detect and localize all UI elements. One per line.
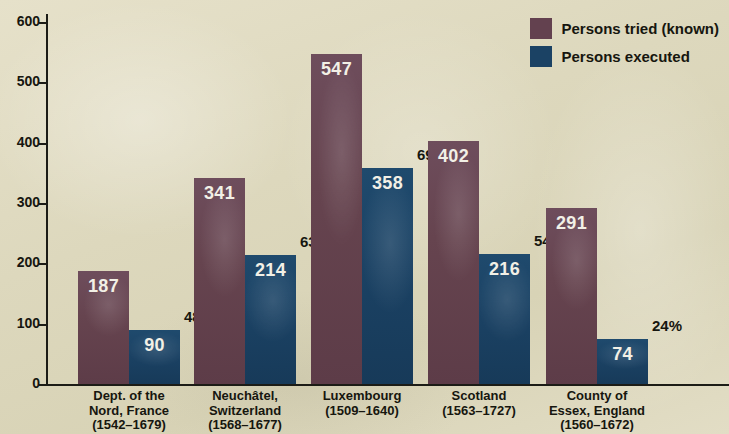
- y-tick-label: 500: [17, 73, 40, 89]
- x-axis-label-line: (1568–1677): [165, 418, 325, 433]
- y-tick-label: 100: [17, 315, 40, 331]
- bar-value-label: 216: [479, 259, 530, 280]
- y-tick-mark: [39, 263, 47, 265]
- y-tick-label: 400: [17, 134, 40, 150]
- x-axis-labels: Dept. of theNord, France(1542–1679)Neuch…: [46, 389, 729, 434]
- legend-swatch-persons-executed: [530, 46, 552, 67]
- legend-item: Persons tried (known): [530, 18, 719, 39]
- y-axis-line: [46, 14, 48, 386]
- y-tick-label: 300: [17, 194, 40, 210]
- bar-group: 54735869%: [311, 14, 413, 384]
- legend-item: Persons executed: [530, 46, 719, 67]
- legend: Persons tried (known)Persons executed: [530, 18, 719, 67]
- bar-persons-executed: 214: [245, 255, 296, 384]
- y-tick-mark: [39, 384, 47, 386]
- x-axis-label-line: County of: [517, 389, 677, 404]
- bar-value-label: 341: [194, 183, 245, 204]
- x-axis-label-line: (1560–1672): [517, 418, 677, 433]
- legend-label: Persons tried (known): [561, 20, 719, 37]
- bar-value-label: 402: [428, 146, 479, 167]
- y-tick-label: 200: [17, 254, 40, 270]
- bar-value-label: 90: [129, 335, 180, 356]
- bar-value-label: 214: [245, 260, 296, 281]
- y-tick-mark: [39, 22, 47, 24]
- bar-persons-tried: 187: [78, 271, 129, 384]
- bar-value-label: 187: [78, 276, 129, 297]
- y-tick-mark: [39, 82, 47, 84]
- bar-group: 1879048%: [78, 14, 180, 384]
- execution-rate-label: 24%: [652, 317, 682, 334]
- bar-group: 40221654%: [428, 14, 530, 384]
- bar-value-label: 74: [597, 344, 648, 365]
- bar-persons-executed: 74: [597, 339, 648, 384]
- bar-persons-executed: 216: [479, 254, 530, 384]
- plot-area: 0100200300400500600 1879048%34121463%547…: [46, 14, 729, 386]
- bar-group: 34121463%: [194, 14, 296, 384]
- y-tick-mark: [39, 143, 47, 145]
- bar-persons-tried: 341: [194, 178, 245, 384]
- bar-persons-executed: 90: [129, 330, 180, 384]
- y-tick-label: 600: [17, 13, 40, 29]
- y-tick-mark: [39, 324, 47, 326]
- y-tick-label: 0: [32, 375, 40, 391]
- legend-label: Persons executed: [561, 48, 689, 65]
- bar-persons-executed: 358: [362, 168, 413, 384]
- bar-group: 2917424%: [546, 14, 648, 384]
- bar-persons-tried: 402: [428, 141, 479, 384]
- bar-persons-tried: 547: [311, 54, 362, 384]
- x-axis-label: County ofEssex, England(1560–1672): [517, 389, 677, 433]
- x-axis-label-line: Essex, England: [517, 404, 677, 419]
- legend-swatch-persons-tried: [530, 18, 552, 39]
- bar-chart: 0100200300400500600 1879048%34121463%547…: [0, 0, 729, 434]
- x-axis-line: [46, 384, 729, 386]
- bar-value-label: 547: [311, 59, 362, 80]
- bar-value-label: 358: [362, 173, 413, 194]
- y-tick-mark: [39, 203, 47, 205]
- bar-persons-tried: 291: [546, 208, 597, 384]
- bar-value-label: 291: [546, 213, 597, 234]
